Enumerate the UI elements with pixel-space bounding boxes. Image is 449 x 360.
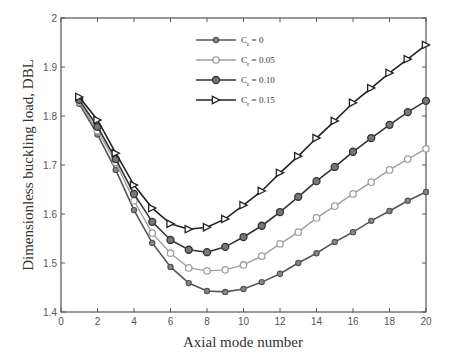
data-point [149, 230, 155, 236]
data-point [295, 193, 302, 200]
y-tick-label: 1.8 [43, 111, 57, 122]
data-point [150, 240, 155, 245]
data-point [222, 267, 228, 273]
data-point [167, 250, 173, 256]
data-point [350, 148, 357, 155]
data-point [149, 218, 156, 225]
data-point [204, 288, 209, 293]
data-point [213, 77, 220, 84]
data-point [277, 271, 282, 276]
data-point [313, 178, 320, 185]
data-point [423, 189, 428, 194]
series-line [76, 41, 430, 232]
data-point [314, 251, 319, 256]
y-tick-label: 1.9 [43, 62, 57, 73]
legend-item: Cr = 0.15 [196, 95, 275, 108]
data-point [240, 234, 247, 241]
x-tick-label: 16 [347, 316, 359, 327]
data-point [405, 156, 411, 162]
data-point [213, 37, 218, 42]
legend-label: Cr = 0.10 [241, 75, 275, 88]
data-point [404, 109, 411, 116]
data-point [422, 41, 429, 48]
data-point [332, 203, 338, 209]
legend: Cr = 0Cr = 0.05Cr = 0.10Cr = 0.15 [196, 35, 275, 108]
x-tick-label: 6 [168, 316, 174, 327]
data-point [423, 97, 430, 104]
data-point [296, 260, 301, 265]
data-point [186, 280, 191, 285]
data-point [386, 167, 392, 173]
data-point [113, 167, 118, 172]
data-point [131, 190, 138, 197]
data-point [213, 57, 219, 63]
line-chart: 024681012141618201.41.51.61.71.81.92 Cr … [0, 0, 449, 360]
data-point [368, 135, 375, 142]
data-point [167, 220, 174, 227]
data-point [423, 146, 429, 152]
data-point [368, 179, 374, 185]
x-tick-label: 8 [204, 316, 210, 327]
data-point [131, 207, 136, 212]
data-point [204, 268, 210, 274]
x-tick-label: 4 [131, 316, 137, 327]
data-point [405, 198, 410, 203]
data-point [258, 222, 265, 229]
x-tick-label: 2 [95, 316, 101, 327]
series-line [76, 99, 429, 274]
data-point [212, 96, 219, 103]
x-axis-title: Axial mode number [183, 334, 303, 350]
data-point [277, 209, 284, 216]
data-point [203, 224, 210, 231]
data-point [168, 264, 173, 269]
y-tick-label: 2 [51, 13, 57, 24]
x-tick-label: 18 [384, 316, 396, 327]
data-point [222, 243, 229, 250]
data-point [241, 286, 246, 291]
x-tick-label: 14 [311, 316, 323, 327]
x-tick-label: 20 [420, 316, 432, 327]
data-point [313, 215, 319, 221]
data-point [350, 191, 356, 197]
data-point [94, 116, 101, 123]
data-point [369, 218, 374, 223]
data-point [185, 226, 192, 233]
data-point [259, 280, 264, 285]
data-point [185, 246, 192, 253]
legend-label: Cr = 0.15 [241, 95, 275, 108]
data-point [204, 249, 211, 256]
data-point [331, 163, 338, 170]
data-point [112, 150, 119, 157]
y-tick-label: 1.7 [43, 160, 57, 171]
data-point [186, 265, 192, 271]
data-point [387, 208, 392, 213]
y-tick-label: 1.5 [43, 258, 57, 269]
y-tick-label: 1.4 [43, 307, 57, 318]
x-tick-label: 10 [238, 316, 250, 327]
data-point [259, 253, 265, 259]
data-point [350, 230, 355, 235]
y-axis-title: Dimensionless buckling load, DBL [20, 59, 36, 271]
axis-ticks: 024681012141618201.41.51.61.71.81.92 [43, 13, 432, 327]
legend-item: Cr = 0 [196, 35, 264, 48]
legend-item: Cr = 0.10 [196, 75, 275, 88]
data-point [277, 241, 283, 247]
x-tick-label: 12 [274, 316, 286, 327]
legend-label: Cr = 0 [241, 35, 264, 48]
y-tick-label: 1.6 [43, 209, 57, 220]
data-point [240, 262, 246, 268]
data-point [223, 289, 228, 294]
x-tick-label: 0 [58, 316, 64, 327]
data-point [332, 239, 337, 244]
data-point [386, 121, 393, 128]
legend-item: Cr = 0.05 [196, 55, 275, 68]
data-point [295, 229, 301, 235]
data-point [167, 236, 174, 243]
legend-label: Cr = 0.05 [241, 55, 275, 68]
